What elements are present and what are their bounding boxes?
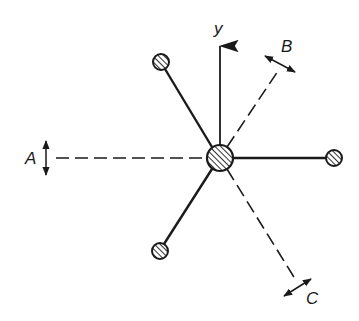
bond-upper-left: [165, 69, 212, 147]
direction-label-c: C: [306, 290, 318, 307]
bond-lower-left: [164, 169, 212, 244]
direction-label-a: A: [25, 150, 36, 167]
direction-label-b: B: [281, 38, 292, 55]
y-axis-label: y: [214, 20, 223, 37]
double-arrow-b-icon: [265, 56, 295, 72]
atom-lower-left: [152, 243, 168, 259]
atom-upper-left: [153, 54, 169, 70]
direction-line-c: [227, 169, 297, 282]
atom-center: [207, 145, 233, 171]
molecule-diagram: [0, 0, 359, 321]
atom-right: [326, 150, 342, 166]
direction-line-b: [227, 68, 280, 147]
